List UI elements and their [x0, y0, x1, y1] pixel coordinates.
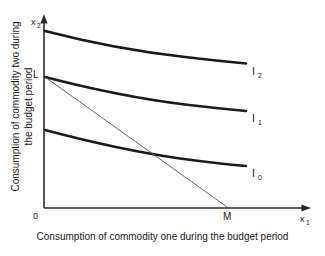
point-label-l: L	[33, 69, 39, 80]
y-axis-variable-subscript: 2	[37, 22, 41, 29]
indifference-curve-figure: I 2 I 1 I 0 L M 0 x 2 x 1 Consumption of…	[0, 0, 325, 256]
origin-label: 0	[33, 211, 38, 221]
point-label-m: M	[223, 211, 231, 222]
indifference-curve-i1	[45, 77, 246, 111]
y-axis-variable-symbol: x	[31, 17, 36, 27]
curve-label-i1-subscript: 1	[258, 119, 262, 126]
y-axis-arrow-icon	[40, 14, 47, 24]
indifference-curve-i2	[45, 31, 246, 64]
curve-label-i1-symbol: I	[252, 112, 255, 124]
x-axis-variable-symbol: x	[300, 214, 305, 224]
x-axis-variable-subscript: 1	[306, 219, 310, 226]
indifference-curve-i0	[45, 130, 246, 166]
plot-area: I 2 I 1 I 0 L M 0 x 2 x 1	[0, 0, 325, 256]
curve-label-i0-subscript: 0	[258, 174, 262, 181]
curve-label-i0-symbol: I	[252, 167, 255, 179]
curve-label-i2-subscript: 2	[258, 72, 262, 79]
x-axis-arrow-icon	[302, 204, 312, 211]
curve-label-i2-symbol: I	[252, 65, 255, 77]
x-axis-caption: Consumption of commodity one during the …	[0, 231, 325, 242]
